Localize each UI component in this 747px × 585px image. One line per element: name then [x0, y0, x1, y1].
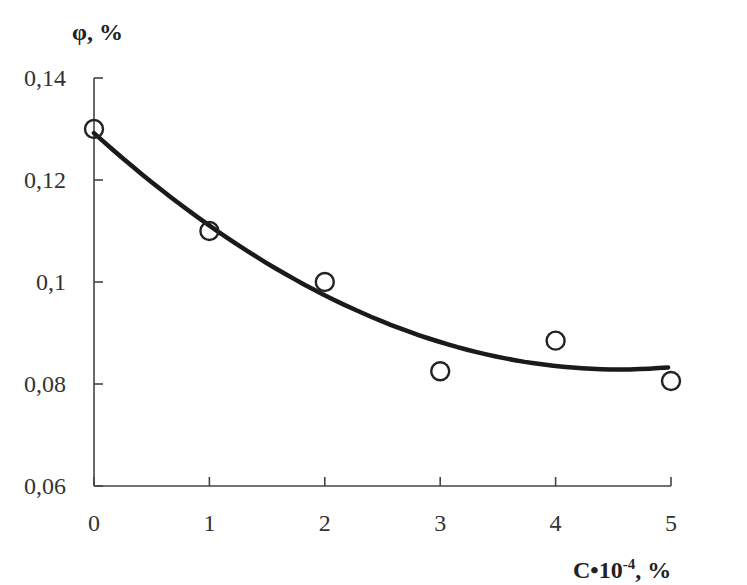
data-markers — [85, 120, 680, 390]
chart: 0,060,080,10,120,14 012345 φ, % C•10-4, … — [0, 0, 747, 585]
x-tick-label: 3 — [434, 510, 446, 536]
x-axis-title-base: C•10 — [573, 557, 623, 583]
data-point-marker — [662, 372, 680, 390]
x-tick-label: 4 — [550, 510, 562, 536]
y-tick-label: 0,06 — [24, 473, 66, 499]
x-axis-title-suffix: , % — [635, 557, 671, 583]
y-ticks: 0,060,080,10,120,14 — [24, 65, 103, 499]
x-axis-title: C•10-4, % — [573, 556, 671, 583]
x-axis-title-superscript: -4 — [623, 556, 636, 572]
x-tick-label: 5 — [665, 510, 677, 536]
y-tick-label: 0,1 — [36, 269, 66, 295]
data-point-marker — [431, 362, 449, 380]
x-tick-label: 2 — [319, 510, 331, 536]
chart-canvas: 0,060,080,10,120,14 012345 φ, % C•10-4, … — [0, 0, 747, 585]
y-tick-label: 0,12 — [24, 167, 66, 193]
data-point-marker — [547, 332, 565, 350]
y-axis-title: φ, % — [72, 19, 123, 45]
data-point-marker — [316, 273, 334, 291]
axes: 0,060,080,10,120,14 012345 — [24, 65, 677, 536]
trend-line — [94, 133, 668, 369]
y-tick-label: 0,08 — [24, 371, 66, 397]
x-tick-label: 1 — [203, 510, 215, 536]
x-tick-label: 0 — [88, 510, 100, 536]
y-tick-label: 0,14 — [24, 65, 66, 91]
